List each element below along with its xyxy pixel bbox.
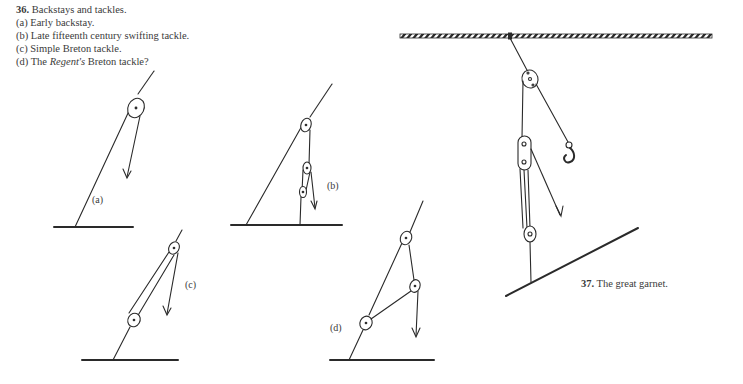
label-d: (d)	[330, 322, 342, 333]
mast-line	[310, 84, 332, 117]
diagram-c-simple-breton-tackle	[82, 230, 182, 360]
fall-line	[531, 149, 560, 215]
figure-number: 37.	[581, 278, 594, 289]
lower-garnet-block-icon	[524, 226, 536, 242]
stay-lower-line	[349, 330, 363, 360]
mast-line	[176, 230, 182, 241]
middle-garnet-block-icon	[518, 136, 531, 170]
tackle-line-1	[129, 252, 169, 313]
figure-title: The great garnet.	[597, 278, 668, 289]
fall-line	[127, 116, 140, 177]
hook-eye	[566, 142, 572, 148]
label-a: (a)	[92, 194, 103, 205]
label-c: (c)	[185, 279, 196, 290]
stay-lower-line	[113, 327, 130, 360]
pendant-line	[510, 38, 528, 72]
backstay-line	[75, 111, 129, 227]
mast-line	[410, 201, 423, 232]
fall-line	[416, 291, 418, 336]
label-b: (b)	[327, 180, 339, 191]
hook-line	[536, 84, 568, 142]
figure-37-caption: 37. The great garnet.	[581, 278, 668, 289]
diagram-a-early-backstay	[54, 71, 154, 227]
hook-icon	[564, 148, 574, 162]
arrow-down-icon	[163, 306, 171, 315]
strop-line	[530, 242, 531, 282]
fall-line	[167, 253, 178, 314]
mast-line	[138, 71, 154, 94]
diagram-b-swifting-tackle	[231, 84, 342, 225]
diagram-d-regent-breton-tackle	[330, 201, 434, 360]
rigging-diagrams	[0, 0, 743, 384]
diagram-37-great-garnet	[400, 33, 712, 297]
stay-line	[246, 124, 303, 225]
stay-rope	[400, 34, 712, 38]
stay-upper-line	[369, 243, 402, 315]
arrow-down-icon	[123, 169, 131, 178]
runner-line	[522, 81, 523, 138]
